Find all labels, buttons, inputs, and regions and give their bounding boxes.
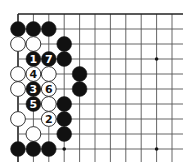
white-stone-icon	[11, 82, 26, 97]
white-stone	[26, 127, 41, 142]
white-stone	[26, 37, 41, 52]
white-stone-icon	[41, 97, 56, 112]
black-stone	[57, 97, 72, 112]
black-stone-icon	[11, 22, 26, 37]
black-stone-icon	[57, 112, 72, 127]
white-stone-icon	[26, 127, 41, 142]
black-stone	[41, 22, 56, 37]
move-number-label: 1	[30, 53, 38, 66]
black-stone	[57, 52, 72, 67]
black-stone-icon	[41, 22, 56, 37]
black-stone-icon	[41, 142, 56, 157]
black-stone	[41, 142, 56, 157]
go-board: 1743652	[0, 0, 194, 166]
black-stone-icon	[26, 142, 41, 157]
black-stone-move-7: 7	[41, 52, 56, 67]
black-stone-move-5: 5	[26, 97, 41, 112]
white-stone	[11, 112, 26, 127]
black-stone	[26, 22, 41, 37]
black-stone-icon	[72, 82, 87, 97]
black-stone	[72, 82, 87, 97]
white-stone	[41, 97, 56, 112]
move-number-label: 5	[30, 98, 38, 111]
white-stone-icon	[11, 112, 26, 127]
black-stone	[72, 67, 87, 82]
black-stone-icon	[57, 37, 72, 52]
black-stone-icon	[57, 52, 72, 67]
black-stone-icon	[11, 142, 26, 157]
star-point-icon	[155, 57, 159, 61]
black-stone-icon	[57, 127, 72, 142]
white-stone	[11, 82, 26, 97]
black-stone	[26, 142, 41, 157]
black-stone	[57, 112, 72, 127]
white-stone-icon	[26, 37, 41, 52]
star-point-icon	[62, 147, 66, 151]
move-number-label: 3	[30, 83, 38, 96]
black-stone	[57, 127, 72, 142]
star-point-icon	[155, 147, 159, 151]
white-stone-move-6: 6	[41, 82, 56, 97]
black-stone-icon	[26, 22, 41, 37]
white-stone-move-2: 2	[41, 112, 56, 127]
black-stone-move-3: 3	[26, 82, 41, 97]
black-stone	[57, 37, 72, 52]
move-number-label: 2	[45, 113, 53, 126]
black-stone-icon	[72, 67, 87, 82]
move-number-label: 4	[30, 68, 38, 81]
white-stone-icon	[41, 67, 56, 82]
move-number-label: 6	[45, 83, 53, 96]
black-stone-icon	[57, 97, 72, 112]
black-stone	[11, 142, 26, 157]
white-stone	[11, 37, 26, 52]
white-stone	[11, 67, 26, 82]
black-stone	[11, 22, 26, 37]
white-stone-icon	[11, 37, 26, 52]
white-stone-move-4: 4	[26, 67, 41, 82]
white-stone	[41, 67, 56, 82]
move-number-label: 7	[45, 53, 53, 66]
white-stone-icon	[11, 67, 26, 82]
black-stone-move-1: 1	[26, 52, 41, 67]
go-board-svg: 1743652	[0, 0, 194, 166]
